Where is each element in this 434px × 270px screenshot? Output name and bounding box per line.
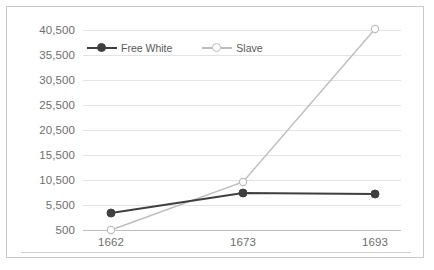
filled-circle-icon bbox=[97, 43, 106, 52]
legend-entry-free-white[interactable]: Free White bbox=[87, 42, 172, 54]
data-point-slave-1673 bbox=[239, 178, 246, 185]
xtick-label-1693: 1693 bbox=[340, 236, 410, 248]
legend-label-free-white: Free White bbox=[121, 42, 172, 54]
chart-frame: 40,500 35,500 30,500 25,500 20,500 15,50… bbox=[6, 6, 424, 258]
xtick-label-1662: 1662 bbox=[76, 236, 146, 248]
legend-label-slave: Slave bbox=[236, 42, 262, 54]
legend-key-slave bbox=[202, 43, 232, 53]
legend-key-free-white bbox=[87, 43, 117, 53]
legend-entry-slave[interactable]: Slave bbox=[202, 42, 262, 54]
open-circle-icon bbox=[212, 43, 221, 52]
chart-legend: Free White Slave bbox=[87, 42, 263, 54]
series-line-slave bbox=[111, 29, 375, 230]
data-point-free-white-1662 bbox=[107, 209, 115, 217]
plot-area: 40,500 35,500 30,500 25,500 20,500 15,50… bbox=[7, 7, 425, 259]
xtick-label-1673: 1673 bbox=[208, 236, 278, 248]
data-point-free-white-1693 bbox=[371, 190, 379, 198]
data-point-slave-1662 bbox=[107, 226, 114, 233]
data-point-slave-1693 bbox=[371, 25, 378, 32]
data-point-free-white-1673 bbox=[239, 189, 247, 197]
